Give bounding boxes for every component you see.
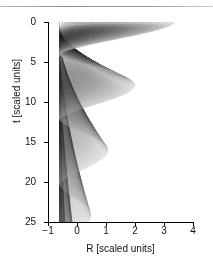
- y-tick-mark: [44, 62, 48, 63]
- x-axis-line: [48, 222, 193, 223]
- y-tick-label: 20: [18, 177, 36, 187]
- x-tick-label: 3: [154, 226, 174, 236]
- y-axis-label-wrapper: t [scaled units]: [11, 31, 25, 151]
- x-axis-label: R [scaled units]: [48, 243, 193, 254]
- y-tick-label: 25: [18, 217, 36, 227]
- x-tick-label: 1: [96, 226, 116, 236]
- x-tick-label: 4: [183, 226, 203, 236]
- y-tick-mark: [44, 22, 48, 23]
- plot-canvas-holder: [48, 22, 193, 222]
- x-tick-label: 0: [67, 226, 87, 236]
- figure-container: 0510152025 −101234 R [scaled units] t [s…: [0, 0, 213, 277]
- page-divider-rule: [0, 6, 213, 7]
- y-tick-mark: [44, 102, 48, 103]
- y-axis-label: t [scaled units]: [11, 31, 23, 151]
- y-tick-label: 0: [18, 17, 36, 27]
- x-tick-label: 2: [125, 226, 145, 236]
- trajectory-bundle-plot: [48, 22, 193, 222]
- y-tick-mark: [44, 182, 48, 183]
- x-tick-label: −1: [38, 226, 58, 236]
- y-axis-line: [48, 22, 49, 222]
- y-tick-mark: [44, 142, 48, 143]
